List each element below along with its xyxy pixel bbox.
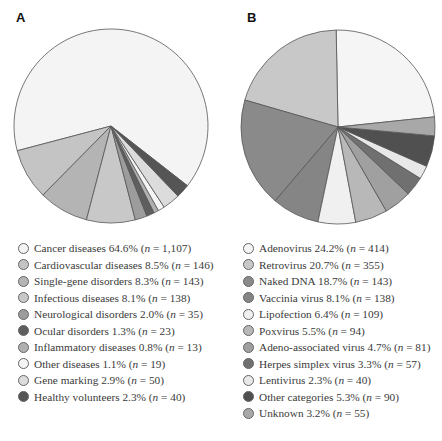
legend-swatch-icon: [18, 342, 29, 353]
legend-label: Vaccinia virus 8.1% (n = 138): [259, 292, 395, 304]
legend-item: Herpes simplex virus 3.3% (n = 57): [243, 356, 430, 373]
legend-label: Naked DNA 18.7% (n = 143): [259, 275, 392, 287]
legend-label: Inflammatory diseases 0.8% (n = 13): [34, 341, 202, 353]
legend-item: Lipofection 6.4% (n = 109): [243, 306, 430, 323]
legend-item: Adeno-associated virus 4.7% (n = 81): [243, 339, 430, 356]
legend-label: Infectious diseases 8.1% (n = 138): [34, 292, 190, 304]
legend-label: Unknown 3.2% (n = 55): [259, 407, 369, 419]
legend-item: Unknown 3.2% (n = 55): [243, 405, 430, 422]
legend-item: Ocular disorders 1.3% (n = 23): [18, 323, 214, 340]
legend-swatch-icon: [243, 292, 254, 303]
legend-label: Cancer diseases 64.6% (n = 1,107): [34, 242, 191, 254]
legend-swatch-icon: [243, 408, 254, 419]
legend-swatch-icon: [18, 259, 29, 270]
legend-item: Other diseases 1.1% (n = 19): [18, 356, 214, 373]
legend-item: Healthy volunteers 2.3% (n = 40): [18, 389, 214, 406]
legend-swatch-icon: [18, 325, 29, 336]
legend-item: Lentivirus 2.3% (n = 40): [243, 372, 430, 389]
legend-swatch-icon: [243, 276, 254, 287]
legend-item: Naked DNA 18.7% (n = 143): [243, 273, 430, 290]
legend-item: Neurological disorders 2.0% (n = 35): [18, 306, 214, 323]
legend-swatch-icon: [243, 243, 254, 254]
legend-item: Adenovirus 24.2% (n = 414): [243, 240, 430, 257]
legend-item: Cardiovascular diseases 8.5% (n = 146): [18, 257, 214, 274]
legend-swatch-icon: [18, 358, 29, 369]
legend-swatch-icon: [18, 309, 29, 320]
legend-swatch-icon: [243, 309, 254, 320]
legend-a: Cancer diseases 64.6% (n = 1,107)Cardiov…: [18, 240, 214, 405]
legend-label: Healthy volunteers 2.3% (n = 40): [34, 391, 185, 403]
legend-label: Other diseases 1.1% (n = 19): [34, 358, 165, 370]
legend-swatch-icon: [243, 342, 254, 353]
legend-item: Single-gene disorders 8.3% (n = 143): [18, 273, 214, 290]
legend-label: Neurological disorders 2.0% (n = 35): [34, 308, 203, 320]
legend-item: Retrovirus 20.7% (n = 355): [243, 257, 430, 274]
legend-swatch-icon: [18, 375, 29, 386]
legend-item: Cancer diseases 64.6% (n = 1,107): [18, 240, 214, 257]
legend-label: Cardiovascular diseases 8.5% (n = 146): [34, 259, 214, 271]
legend-label: Single-gene disorders 8.3% (n = 143): [34, 275, 204, 287]
legend-item: Inflammatory diseases 0.8% (n = 13): [18, 339, 214, 356]
legend-swatch-icon: [243, 391, 254, 402]
legend-label: Adenovirus 24.2% (n = 414): [259, 242, 389, 254]
legend-item: Vaccinia virus 8.1% (n = 138): [243, 290, 430, 307]
legend-swatch-icon: [243, 375, 254, 386]
legend-swatch-icon: [243, 325, 254, 336]
legend-item: Gene marking 2.9% (n = 50): [18, 372, 214, 389]
legend-swatch-icon: [243, 259, 254, 270]
legend-item: Poxvirus 5.5% (n = 94): [243, 323, 430, 340]
legend-label: Poxvirus 5.5% (n = 94): [259, 325, 365, 337]
legend-item: Infectious diseases 8.1% (n = 138): [18, 290, 214, 307]
legend-label: Lentivirus 2.3% (n = 40): [259, 374, 371, 386]
pie-charts: [0, 0, 442, 240]
pie-chart-a: [14, 29, 208, 223]
legend-label: Adeno-associated virus 4.7% (n = 81): [259, 341, 430, 353]
legend-b: Adenovirus 24.2% (n = 414)Retrovirus 20.…: [243, 240, 430, 422]
legend-label: Lipofection 6.4% (n = 109): [259, 308, 383, 320]
legend-label: Gene marking 2.9% (n = 50): [34, 374, 164, 386]
legend-label: Retrovirus 20.7% (n = 355): [259, 259, 384, 271]
legend-swatch-icon: [243, 358, 254, 369]
pie-chart-b: [241, 30, 435, 224]
legend-swatch-icon: [18, 292, 29, 303]
legend-item: Other categories 5.3% (n = 90): [243, 389, 430, 406]
legend-swatch-icon: [18, 276, 29, 287]
pie-slice: [336, 30, 434, 127]
legend-label: Ocular disorders 1.3% (n = 23): [34, 325, 175, 337]
legend-swatch-icon: [18, 243, 29, 254]
legend-label: Herpes simplex virus 3.3% (n = 57): [259, 358, 421, 370]
legend-swatch-icon: [18, 391, 29, 402]
legend-label: Other categories 5.3% (n = 90): [259, 391, 399, 403]
